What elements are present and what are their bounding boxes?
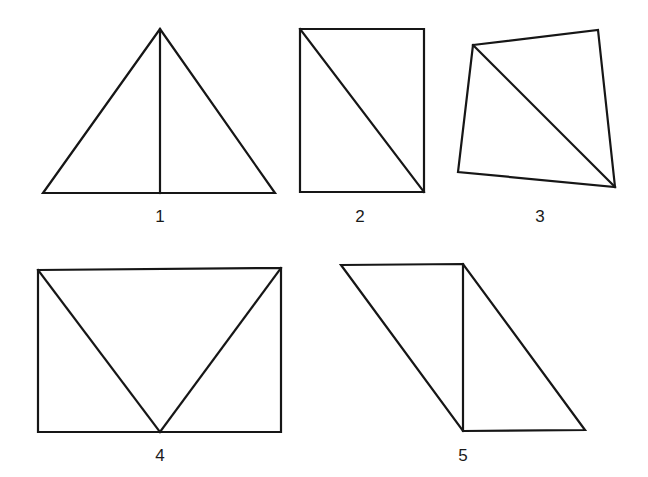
figure-label-3: 3 xyxy=(535,208,545,225)
figure-group-3 xyxy=(458,30,615,187)
figure-4-inner-line-0 xyxy=(38,270,160,432)
figure-4-inner-line-1 xyxy=(160,268,281,432)
figure-group-5 xyxy=(341,264,585,431)
figure-3-inner-line-0 xyxy=(473,45,615,187)
figures-canvas xyxy=(0,0,648,477)
figure-group-1 xyxy=(43,29,275,193)
figure-4-outline xyxy=(38,268,281,432)
figure-label-1: 1 xyxy=(155,208,165,225)
figure-label-4: 4 xyxy=(155,447,165,464)
figure-group-2 xyxy=(300,29,424,192)
figure-group-4 xyxy=(38,268,281,432)
figure-label-5: 5 xyxy=(458,447,468,464)
figure-label-2: 2 xyxy=(355,208,365,225)
figure-sheet: 1 2 3 4 5 xyxy=(0,0,648,477)
figure-2-inner-line-0 xyxy=(300,29,424,192)
